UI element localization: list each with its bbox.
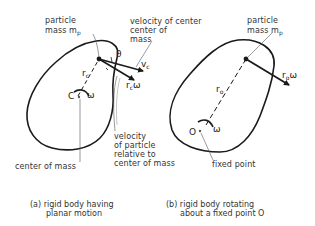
rc-omega-symbol: rcω bbox=[126, 81, 141, 92]
velocity-center-label: velocity of center center of mass bbox=[130, 18, 202, 44]
vc-label-line1: velocity of center bbox=[130, 18, 202, 26]
ro-dashed-line bbox=[206, 59, 246, 125]
fixed-point-label: fixed point bbox=[212, 161, 256, 169]
particle-label-b: particle mass mp bbox=[247, 17, 283, 37]
theta-symbol: θ bbox=[116, 50, 122, 59]
relative-velocity-label: velocity of particle relative to center … bbox=[114, 133, 175, 168]
rel-line1: velocity bbox=[114, 133, 175, 141]
particle-label-a-line2: mass mp bbox=[45, 27, 81, 37]
particle-mass-text: mass m bbox=[45, 26, 77, 35]
o-symbol: O bbox=[189, 128, 196, 137]
vc-symbol: vc bbox=[141, 60, 150, 71]
ro-omega-symbol: roω bbox=[282, 71, 297, 82]
omega-symbol-b: ω bbox=[213, 125, 221, 134]
rc-symbol: rc bbox=[82, 69, 89, 80]
particle-label-b-line1: particle bbox=[247, 17, 283, 25]
caption-a: (a) rigid body having planar motion bbox=[30, 200, 114, 218]
vc-label-line3: mass bbox=[130, 36, 202, 44]
leader-particle-a bbox=[93, 34, 99, 57]
omega-rotation-arc-b bbox=[198, 120, 213, 127]
rc-sub: c bbox=[86, 72, 89, 79]
leader-relative-velocity-2 bbox=[116, 78, 120, 125]
particle-label-b-line2: mass mp bbox=[247, 27, 283, 37]
rcw-omega: ω bbox=[133, 80, 141, 90]
fixed-point-o bbox=[199, 130, 201, 132]
vc-label-line2: center of bbox=[130, 27, 202, 35]
figure-b bbox=[170, 33, 289, 160]
caption-b-line2: about a fixed point O bbox=[166, 209, 264, 218]
particle-label-a: particle mass mp bbox=[45, 17, 81, 37]
center-of-mass-point bbox=[78, 96, 80, 98]
caption-b-line1: (b) rigid body rotating bbox=[166, 200, 264, 209]
theta-arc bbox=[111, 57, 112, 62]
c-symbol: C bbox=[68, 92, 74, 101]
caption-a-line2: planar motion bbox=[30, 209, 114, 218]
row-omega: ω bbox=[289, 70, 297, 80]
leader-fixed-point bbox=[201, 133, 213, 160]
rel-line3: relative to bbox=[114, 151, 175, 159]
ro-symbol: ro bbox=[216, 85, 223, 96]
particle-mass-sub-b: p bbox=[279, 29, 283, 36]
rel-line4: center of mass bbox=[114, 160, 175, 168]
particle-mass-text-b: mass m bbox=[247, 26, 279, 35]
caption-a-line1: (a) rigid body having bbox=[30, 200, 114, 209]
theta-arc-lower bbox=[106, 68, 108, 70]
caption-b: (b) rigid body rotating about a fixed po… bbox=[166, 200, 264, 218]
center-of-mass-label: center of mass bbox=[15, 163, 76, 171]
ro-sub: o bbox=[220, 88, 224, 95]
omega-symbol-a: ω bbox=[87, 91, 95, 100]
particle-label-a-line1: particle bbox=[45, 17, 81, 25]
vc-arrow bbox=[99, 59, 143, 71]
particle-mass-sub: p bbox=[77, 29, 81, 36]
vc-sub: c bbox=[146, 63, 149, 70]
rel-line2: of particle bbox=[114, 142, 175, 150]
